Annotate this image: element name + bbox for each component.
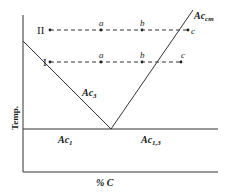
ac13-label: Ac1,3 [140, 134, 161, 147]
path-ii-b-dot [141, 29, 144, 32]
x-axis-label: % C [96, 177, 114, 188]
path-i-label: I [43, 56, 47, 68]
ac3-label: Ac3 [81, 87, 97, 100]
accm-line [111, 10, 193, 129]
path-ii-c-dot [187, 29, 190, 32]
path-ii-a-dot [100, 29, 103, 32]
accm-label: Accm [193, 10, 214, 23]
ac3-line [23, 41, 111, 129]
path-ii-a-label: a [99, 18, 104, 28]
path-i-start-dot [49, 61, 52, 64]
path-ii-b-label: b [140, 18, 145, 28]
path-i-c-dot [180, 61, 183, 64]
path-i-b-label: b [140, 50, 145, 60]
y-axis-label: Temp. [10, 106, 20, 130]
path-i-c-label: c [181, 50, 185, 60]
path-ii-c-label: c [191, 26, 195, 36]
iron-carbon-diagram: II I a b c a b c Accm Ac3 Ac1 Ac1,3 Temp… [0, 0, 231, 194]
path-i-a-dot [100, 61, 103, 64]
path-i-a-label: a [99, 50, 104, 60]
path-ii-label: II [37, 24, 45, 36]
path-ii-start-dot [49, 29, 52, 32]
path-i-b-dot [141, 61, 144, 64]
ac1-label: Ac1 [57, 134, 73, 147]
